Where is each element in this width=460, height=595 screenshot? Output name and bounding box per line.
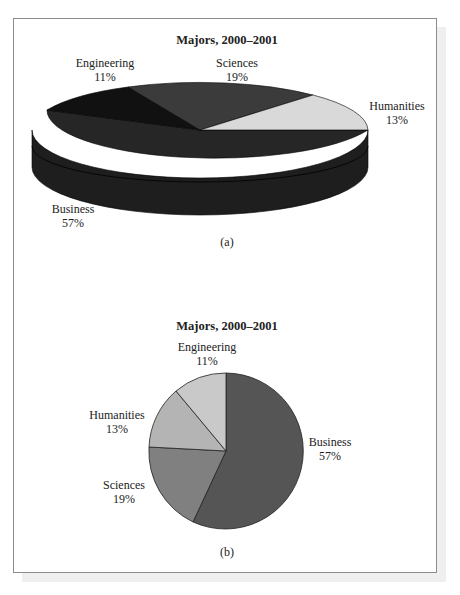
- label-a-engineering: Engineering 11%: [76, 57, 135, 84]
- label-a-business: Business 57%: [52, 203, 95, 230]
- chart-b-pie: [149, 373, 303, 529]
- caption-b: (b): [220, 545, 234, 560]
- label-b-business: Business 57%: [309, 436, 352, 463]
- chart-b-title: Majors, 2000–2001: [176, 319, 277, 334]
- label-b-engineering: Engineering 11%: [178, 341, 237, 368]
- caption-a: (a): [220, 235, 233, 250]
- label-a-humanities: Humanities 13%: [369, 100, 424, 127]
- label-a-sciences: Sciences 19%: [216, 57, 258, 84]
- label-b-humanities: Humanities 13%: [89, 409, 144, 436]
- chart-a-pie-3d: [0, 0, 460, 595]
- label-b-sciences: Sciences 19%: [103, 479, 145, 506]
